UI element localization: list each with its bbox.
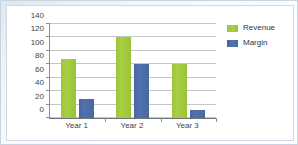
legend-swatch-icon xyxy=(227,25,238,32)
legend-label: Revenue xyxy=(243,24,275,32)
y-axis-tick-label: 120 xyxy=(31,25,44,33)
y-axis-tick-label: 60 xyxy=(35,66,44,74)
bar-group xyxy=(50,24,105,118)
bar-margin[interactable] xyxy=(190,110,205,118)
y-axis-tick-label: 40 xyxy=(35,79,44,87)
y-axis-tick-label: 20 xyxy=(35,93,44,101)
bar-revenue[interactable] xyxy=(172,64,187,118)
chart-plot-wrapper: 020406080100120140 Year 1Year 2Year 3 Re… xyxy=(15,12,293,144)
legend-item-revenue[interactable]: Revenue xyxy=(227,24,275,32)
legend-item-margin[interactable]: Margin xyxy=(227,39,275,47)
y-axis-tick-label: 100 xyxy=(31,39,44,47)
bar-revenue[interactable] xyxy=(61,59,76,118)
legend-swatch-icon xyxy=(227,40,238,47)
bar-margin[interactable] xyxy=(79,99,94,118)
y-axis-tick-label: 80 xyxy=(35,52,44,60)
chart-legend: RevenueMargin xyxy=(227,24,275,47)
bar-group xyxy=(161,24,216,118)
bars-layer xyxy=(50,24,216,118)
y-axis-tick-label: 0 xyxy=(40,106,44,114)
bar-revenue[interactable] xyxy=(116,37,131,118)
y-axis-tick-label: 140 xyxy=(31,12,44,20)
chart-inner-panel: 020406080100120140 Year 1Year 2Year 3 Re… xyxy=(6,5,294,141)
x-axis-tick-label: Year 1 xyxy=(49,122,104,130)
x-axis-tick-label: Year 2 xyxy=(104,122,159,130)
x-axis-tick xyxy=(216,118,217,122)
chart-frame: 020406080100120140 Year 1Year 2Year 3 Re… xyxy=(0,0,298,145)
bar-margin[interactable] xyxy=(134,64,149,118)
x-axis-tick-label: Year 3 xyxy=(160,122,215,130)
bar-group xyxy=(105,24,160,118)
legend-label: Margin xyxy=(243,39,267,47)
x-axis-labels: Year 1Year 2Year 3 xyxy=(49,122,215,130)
plot-area: 020406080100120140 xyxy=(49,24,216,119)
